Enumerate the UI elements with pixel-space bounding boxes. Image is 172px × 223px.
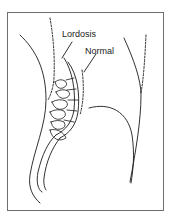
- back-contour: [20, 35, 46, 203]
- normal-front-dashed: [141, 35, 146, 93]
- label-normal: Normal: [85, 47, 114, 56]
- normal-back-dashed: [48, 18, 54, 100]
- front-contour: [124, 38, 141, 182]
- normal-spine-dashed: [80, 70, 83, 115]
- abdomen-contour: [89, 106, 134, 183]
- coccyx: [44, 138, 60, 190]
- normal-leader: [84, 54, 96, 72]
- lordosis-leader: [62, 42, 72, 58]
- label-lordosis: Lordosis: [62, 30, 96, 39]
